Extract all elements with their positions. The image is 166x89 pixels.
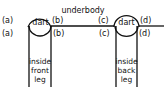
point-d-top: (d) <box>140 16 151 25</box>
point-a-top: (a) <box>2 16 13 25</box>
underbody-label: underbody <box>61 6 104 15</box>
point-a-bottom: (a) <box>2 29 13 38</box>
left-dart-label: dart <box>32 18 48 27</box>
left-leg-label-2: front <box>31 66 49 75</box>
right-dart-bottom-arc <box>115 26 138 36</box>
right-dart-label: dart <box>118 18 134 27</box>
right-leg-label-3: leg <box>121 75 133 84</box>
right-leg-label-2: back <box>118 66 136 75</box>
point-b-bottom: (b) <box>53 29 64 38</box>
point-c-bottom: (c) <box>99 29 110 38</box>
left-leg-label-3: leg <box>34 75 46 84</box>
point-d-bottom: (d) <box>139 29 150 38</box>
left-dart-bottom-arc <box>29 26 51 36</box>
sewing-diagram: underbody dart inside front leg (a) (a) … <box>0 0 166 89</box>
left-leg-label-1: inside <box>29 57 52 66</box>
point-c-top: (c) <box>98 16 109 25</box>
right-leg-label-1: inside <box>115 57 138 66</box>
point-b-top: (b) <box>52 16 63 25</box>
